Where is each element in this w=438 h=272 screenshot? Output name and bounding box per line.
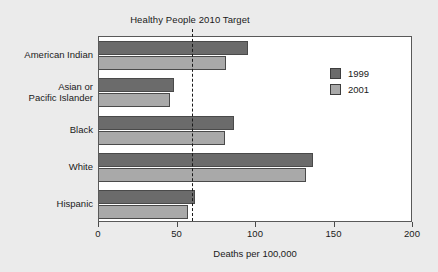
bar-group: [99, 190, 411, 219]
bar-1999-5: [99, 190, 195, 204]
bar-2001-3: [99, 131, 225, 145]
plot-area: [98, 36, 412, 222]
chart-title: Healthy People 2010 Target: [0, 14, 380, 25]
target-line-annotation: [192, 29, 193, 221]
bar-group: [99, 116, 411, 145]
category-label-5: Hispanic: [0, 198, 93, 209]
bar-2001-2: [99, 93, 170, 107]
category-label-4: White: [0, 161, 93, 172]
x-axis-title: Deaths per 100,000: [98, 248, 412, 259]
x-tick-label: 200: [404, 228, 420, 239]
bar-1999-3: [99, 116, 234, 130]
bar-2001-1: [99, 56, 226, 70]
x-tick-mark: [334, 222, 335, 227]
bar-2001-5: [99, 205, 188, 219]
x-tick-label: 150: [326, 228, 342, 239]
x-tick-mark: [255, 222, 256, 227]
legend-label: 1999: [348, 68, 369, 79]
x-tick-label: 0: [95, 228, 100, 239]
bar-1999-1: [99, 41, 248, 55]
legend-swatch-icon: [330, 84, 341, 95]
x-tick-label: 100: [247, 228, 263, 239]
chart-figure: Healthy People 2010 Target American Indi…: [0, 0, 438, 272]
x-tick-mark: [177, 222, 178, 227]
x-tick-mark: [412, 222, 413, 227]
category-label-1: American Indian: [0, 49, 93, 60]
category-label-2: Asian orPacific Islander: [0, 81, 93, 103]
bar-group: [99, 153, 411, 182]
bar-1999-4: [99, 153, 313, 167]
legend-label: 2001: [348, 84, 369, 95]
legend-item-1999: 1999: [330, 68, 369, 79]
x-axis: 050100150200: [98, 222, 412, 228]
bar-1999-2: [99, 78, 174, 92]
x-tick-mark: [98, 222, 99, 227]
bar-group: [99, 41, 411, 70]
category-label-3: Black: [0, 124, 93, 135]
legend-item-2001: 2001: [330, 84, 369, 95]
legend-swatch-icon: [330, 68, 341, 79]
chart-legend: 19992001: [330, 68, 369, 100]
bar-2001-4: [99, 168, 306, 182]
x-tick-label: 50: [171, 228, 182, 239]
